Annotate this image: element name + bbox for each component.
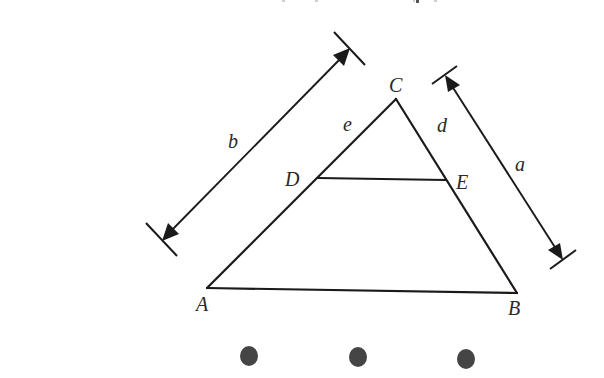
pager-dot-2[interactable] bbox=[349, 347, 367, 367]
clipped-heading-fragment bbox=[282, 0, 437, 3]
vertex-label-e: E bbox=[455, 171, 468, 193]
triangle-abc bbox=[207, 99, 517, 293]
arrow-down-icon bbox=[548, 243, 563, 260]
segment-label-d: d bbox=[437, 114, 448, 136]
side-ac bbox=[207, 99, 396, 288]
vertex-label-c: C bbox=[389, 74, 403, 96]
segment-label-e: e bbox=[343, 113, 352, 135]
pager-dots bbox=[240, 346, 475, 369]
side-bc bbox=[396, 99, 517, 293]
arrow-up-icon bbox=[445, 75, 460, 92]
geometry-diagram: C A B D E e d b a bbox=[0, 0, 604, 378]
pager-dot-1[interactable] bbox=[240, 346, 258, 366]
vertex-label-a: A bbox=[194, 293, 209, 315]
dimension-label-b: b bbox=[228, 130, 238, 152]
vertex-label-b: B bbox=[508, 297, 520, 319]
side-ab bbox=[207, 288, 517, 293]
dimension-b-line bbox=[169, 56, 343, 233]
vertex-label-d: D bbox=[284, 168, 300, 190]
dimension-a-line bbox=[450, 83, 558, 252]
pager-dot-3[interactable] bbox=[457, 349, 475, 369]
dimension-a bbox=[432, 66, 576, 269]
dimension-label-a: a bbox=[515, 153, 525, 175]
dimension-b bbox=[146, 32, 365, 256]
segment-de bbox=[318, 178, 446, 180]
